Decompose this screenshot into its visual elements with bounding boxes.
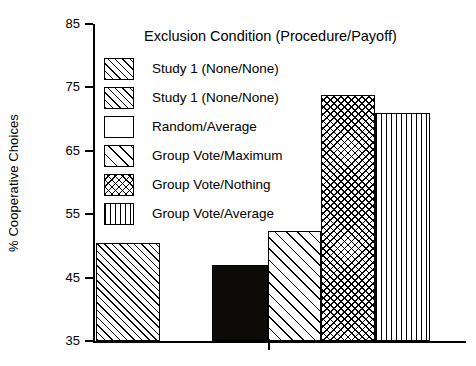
bar-2 — [212, 265, 268, 341]
legend-entry: Group Vote/Average — [104, 199, 444, 228]
legend-swatch-solid-icon — [104, 116, 134, 138]
legend-entry-label: Group Vote/Maximum — [152, 148, 283, 164]
legend-entry: Study 1 (None/None) — [104, 54, 444, 83]
legend-swatch-crosshatch-icon — [104, 174, 134, 196]
bar-1 — [96, 243, 160, 341]
legend-entry-label: Random/Average — [152, 119, 257, 135]
legend-entry: Random/Average — [104, 112, 444, 141]
legend: Exclusion Condition (Procedure/Payoff) S… — [104, 28, 444, 228]
legend-entry: Group Vote/Maximum — [104, 141, 444, 170]
bar-chart-figure: % Cooperative Choices 354555657585 Exclu… — [0, 0, 476, 366]
legend-swatch-diag-sparse-icon — [104, 145, 134, 167]
legend-entry-label: Group Vote/Nothing — [152, 177, 271, 193]
legend-entry: Study 1 (None/None) — [104, 83, 444, 112]
legend-swatch-vertical-icon — [104, 203, 134, 225]
legend-swatch-diag-dense-icon — [104, 87, 134, 109]
legend-entry-label: Group Vote/Average — [152, 206, 274, 222]
legend-entries: Study 1 (None/None)Study 1 (None/None)Ra… — [104, 54, 444, 228]
legend-entry-label: Study 1 (None/None) — [152, 61, 279, 77]
legend-entry-label: Study 1 (None/None) — [152, 90, 279, 106]
legend-title: Exclusion Condition (Procedure/Payoff) — [144, 28, 444, 44]
legend-entry: Group Vote/Nothing — [104, 170, 444, 199]
legend-swatch-diag-dense-icon — [104, 58, 134, 80]
bar-3 — [268, 231, 321, 341]
